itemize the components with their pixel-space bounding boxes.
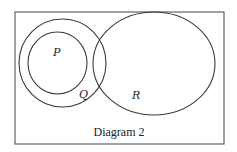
set-r-label: R: [131, 89, 140, 102]
venn-diagram: P Q R Diagram 2: [0, 0, 237, 152]
set-q-label: Q: [79, 88, 88, 101]
set-p-circle: [28, 32, 87, 94]
set-p-label: P: [52, 46, 61, 59]
set-r-ellipse: [93, 12, 215, 115]
diagram-caption: Diagram 2: [94, 125, 145, 139]
